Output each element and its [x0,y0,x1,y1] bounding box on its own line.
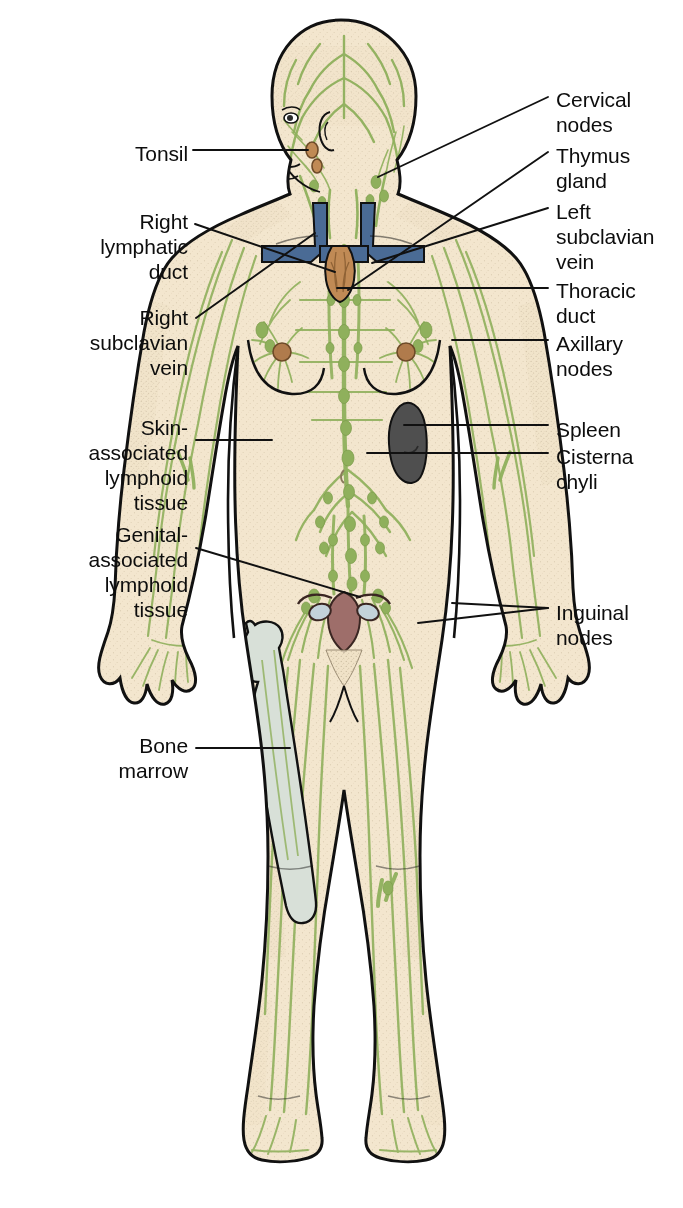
thymus-gland [325,246,355,302]
label-bone-marrow: Bone marrow [80,733,188,783]
label-spleen: Spleen [556,417,621,442]
label-right-lymphatic-duct: Right lymphatic duct [55,209,188,284]
spleen [389,403,427,483]
label-cisterna-chyli: Cisterna chyli [556,444,633,494]
label-thymus-gland: Thymus gland [556,143,630,193]
label-skin-associated-lymphoid-tissue: Skin- associated lymphoid tissue [40,415,188,515]
label-left-subclavian-vein: Left subclavian vein [556,199,654,274]
label-axillary-nodes: Axillary nodes [556,331,623,381]
label-inguinal-nodes: Inguinal nodes [556,600,629,650]
label-tonsil: Tonsil [78,141,188,166]
label-thoracic-duct: Thoracic duct [556,278,636,328]
label-genital-associated-lymphoid-tissue: Genital- associated lymphoid tissue [40,522,188,622]
label-cervical-nodes: Cervical nodes [556,87,631,137]
label-right-subclavian-vein: Right subclavian vein [48,305,188,380]
